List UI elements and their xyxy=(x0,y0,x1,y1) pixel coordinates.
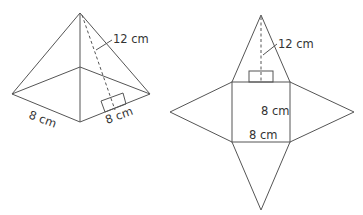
square-pyramid: 12 cm 8 cm 8 cm xyxy=(12,13,150,131)
pyramid-diagram: 12 cm 8 cm 8 cm 12 cm 8 cm 8 cm xyxy=(0,0,363,215)
pyramid-outer-edges xyxy=(12,13,150,94)
net-slant-height-label: 12 cm xyxy=(278,37,314,51)
pyramid-net: 12 cm 8 cm 8 cm xyxy=(170,15,354,210)
net-square-side-label: 8 cm xyxy=(261,104,290,118)
net-bottom-triangle xyxy=(232,142,290,210)
pyramid-base-right-label: 8 cm xyxy=(103,104,135,127)
pyramid-slant-height-label: 12 cm xyxy=(113,32,149,46)
net-right-triangle xyxy=(290,82,354,142)
net-left-triangle xyxy=(170,82,232,142)
net-square-bottom-label: 8 cm xyxy=(249,128,278,142)
pyramid-slant-height xyxy=(82,15,115,110)
net-slant-height-leader xyxy=(263,44,277,55)
